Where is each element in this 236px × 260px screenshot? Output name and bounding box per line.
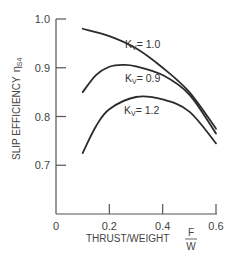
- curve-label: KV= 0.9: [125, 72, 160, 85]
- y-axis-label: SLIP EFFICIENCYηS4: [10, 57, 23, 160]
- y-tick-label: 1.0: [35, 13, 50, 25]
- x-tick-label: 0.2: [102, 220, 117, 232]
- curve-label: KV= 1.2: [124, 104, 159, 117]
- x-tick-label: 0.6: [208, 220, 223, 232]
- x-ticks: 00.20.40.6: [53, 204, 224, 232]
- curve-labels: KV= 1.0KV= 0.9KV= 1.2: [124, 38, 160, 117]
- y-ticks: 1.00.90.80.7: [35, 13, 66, 171]
- svg-text:F: F: [188, 227, 194, 238]
- y-tick-label: 0.8: [35, 111, 50, 123]
- svg-text:W: W: [186, 241, 196, 252]
- y-tick-label: 0.7: [35, 159, 50, 171]
- x-axis-label: THRUST/WEIGHT: [86, 233, 169, 244]
- x-axis-fraction: F W: [185, 227, 197, 252]
- slip-efficiency-chart: 1.00.90.80.7 00.20.40.6 KV= 1.0KV= 0.9KV…: [0, 0, 236, 260]
- x-tick-label: 0.4: [155, 220, 170, 232]
- curve-label: KV= 1.0: [125, 38, 160, 51]
- x-tick-label: 0: [53, 220, 59, 232]
- y-tick-label: 0.9: [35, 62, 50, 74]
